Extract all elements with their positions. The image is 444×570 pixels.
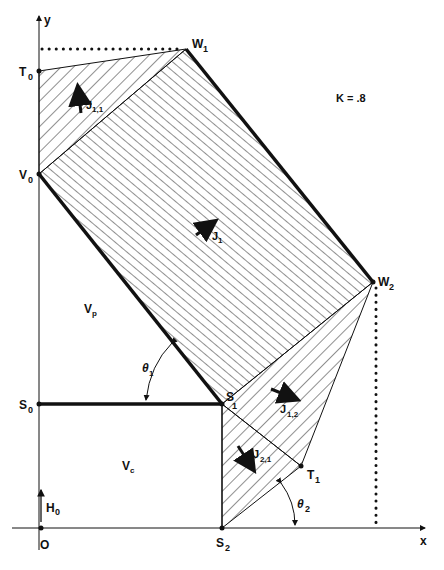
svg-text:1: 1: [218, 236, 223, 245]
svg-text:θ: θ: [142, 361, 149, 375]
svg-text:p: p: [92, 309, 97, 318]
svg-text:1: 1: [315, 475, 320, 485]
svg-text:θ: θ: [297, 497, 304, 511]
svg-text:S: S: [19, 398, 27, 412]
svg-text:2: 2: [225, 543, 230, 553]
svg-text:0: 0: [55, 507, 60, 517]
label-theta2: θ2: [297, 497, 310, 514]
origin-label: O: [40, 538, 49, 552]
x-axis-label: x: [420, 534, 427, 548]
svg-text:0: 0: [28, 405, 33, 415]
label-vp: Vp: [84, 302, 97, 318]
label-s2: S2: [216, 536, 230, 553]
diagram-canvas: y x O K = .8 T0 V0 S0 W1 W2 S1 T1 S2 J1,…: [0, 0, 444, 570]
label-w2: W2: [378, 275, 394, 292]
svg-text:2: 2: [305, 504, 310, 514]
label-s0: S0: [19, 398, 33, 415]
svg-text:V: V: [122, 459, 130, 473]
label-vc: Vc: [122, 459, 135, 475]
svg-text:J: J: [253, 448, 259, 460]
svg-text:T: T: [307, 468, 315, 482]
svg-text:c: c: [130, 466, 135, 475]
label-v0: V0: [19, 168, 33, 185]
svg-text:S: S: [216, 536, 224, 550]
svg-text:2,1: 2,1: [260, 455, 272, 464]
svg-text:V: V: [19, 168, 27, 182]
svg-text:1: 1: [232, 401, 237, 411]
svg-text:0: 0: [28, 72, 33, 82]
label-theta1: θ1: [142, 361, 154, 378]
svg-text:0: 0: [28, 175, 33, 185]
svg-text:1: 1: [149, 369, 154, 378]
y-axis-label: y: [44, 13, 51, 27]
label-h0: H0: [46, 501, 60, 517]
label-w1: W1: [192, 37, 208, 54]
svg-text:1: 1: [203, 44, 208, 54]
label-t1: T1: [307, 468, 320, 485]
svg-text:1,1: 1,1: [92, 105, 104, 114]
k-parameter: K = .8: [336, 92, 366, 104]
svg-text:H: H: [46, 501, 55, 515]
svg-text:J: J: [280, 403, 286, 415]
svg-text:V: V: [84, 302, 92, 316]
angle-arc-theta2: [281, 483, 295, 525]
svg-text:2: 2: [389, 282, 394, 292]
svg-text:1,2: 1,2: [287, 410, 299, 419]
svg-text:T: T: [19, 65, 27, 79]
label-t0: T0: [19, 65, 33, 82]
